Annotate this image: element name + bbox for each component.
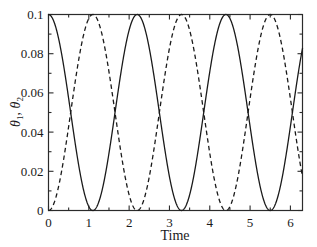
y-tick-label-4: 0.08 (21, 46, 44, 61)
y-title-separator: , (8, 109, 23, 116)
y-title-sub-2: 2 (15, 97, 25, 102)
x-axis-title: Time (160, 228, 189, 243)
y-tick-label-1: 0.02 (21, 164, 44, 179)
x-tick-label-5: 5 (247, 215, 254, 230)
chart-figure: 0123456 00.020.040.060.080.1 Time θ1, θ2 (0, 0, 317, 247)
y-tick-label-5: 0.1 (27, 7, 43, 22)
y-tick-label-2: 0.04 (21, 125, 44, 140)
x-tick-label-6: 6 (287, 215, 294, 230)
x-tick-label-0: 0 (45, 215, 52, 230)
x-tick-label-2: 2 (126, 215, 133, 230)
theta-vs-time-plot: 0123456 00.020.040.060.080.1 Time θ1, θ2 (0, 0, 317, 247)
y-tick-label-0: 0 (37, 203, 44, 218)
x-tick-label-1: 1 (86, 215, 93, 230)
x-tick-label-4: 4 (207, 215, 214, 230)
